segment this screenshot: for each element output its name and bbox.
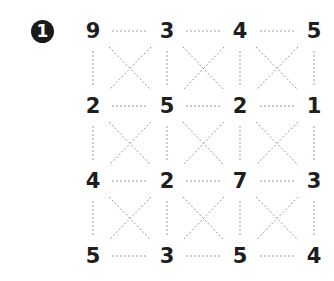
grid-number-r1c3: 1 (302, 94, 326, 118)
grid-number-r3c0: 5 (81, 244, 105, 268)
grid-number-r2c1: 2 (155, 169, 179, 193)
grid-number-r3c3: 4 (302, 244, 326, 268)
grid-number-r2c3: 3 (302, 169, 326, 193)
grid-number-r2c0: 4 (81, 169, 105, 193)
grid-number-r2c2: 7 (228, 169, 252, 193)
grid-number-r0c2: 4 (228, 19, 252, 43)
grid-number-r0c0: 9 (81, 19, 105, 43)
grid-number-r0c3: 5 (302, 19, 326, 43)
grid-number-r1c1: 5 (155, 94, 179, 118)
grid-number-r0c1: 3 (155, 19, 179, 43)
grid-number-r1c0: 2 (81, 94, 105, 118)
grid-number-r1c2: 2 (228, 94, 252, 118)
grid-number-r3c1: 3 (155, 244, 179, 268)
grid-number-r3c2: 5 (228, 244, 252, 268)
